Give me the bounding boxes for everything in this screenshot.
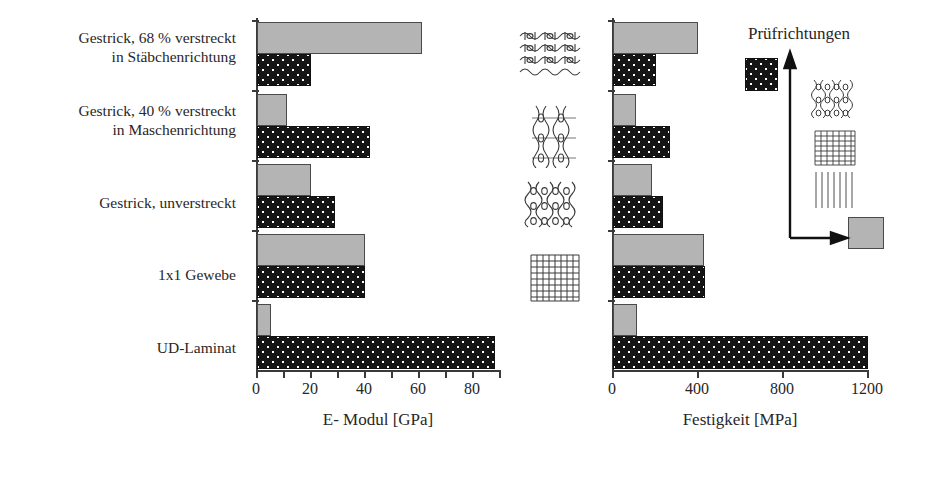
bar-light [257, 234, 365, 266]
x-tick-label: 60 [410, 380, 426, 398]
chart-e-modul: 0 20 40 60 80 E- Modul [GPa] [256, 18, 506, 388]
x-tick-label: 0 [252, 380, 260, 398]
category-label-list: Gestrick, 68 % verstreckt in Stäbchenric… [8, 0, 236, 390]
y-tick [252, 90, 259, 92]
y-tick [252, 160, 259, 162]
x-tick-label: 80 [464, 380, 480, 398]
bar-light [257, 304, 271, 336]
bar-dark [613, 126, 670, 158]
legend-knit-motif-icon [809, 78, 861, 124]
y-tick [608, 90, 615, 92]
bar-dark [613, 266, 705, 298]
bar-dark [613, 196, 663, 228]
x-tick-label: 40 [356, 380, 372, 398]
bar-light [613, 234, 704, 266]
legend-ud-fibers-icon [813, 170, 857, 214]
category-label: Gestrick, 40 % verstreckt in Maschenrich… [78, 101, 236, 139]
x-tick-label: 800 [770, 380, 794, 398]
bar-light [613, 22, 698, 54]
x-tick [364, 370, 366, 378]
bar-light [257, 164, 311, 196]
category-label: UD-Laminat [157, 338, 236, 357]
x-tick [697, 370, 699, 378]
x-tick-label: 400 [685, 380, 709, 398]
bar-dark [613, 54, 656, 86]
bar-dark [257, 266, 365, 298]
y-tick [252, 300, 259, 302]
x-tick [418, 370, 420, 378]
y-tick [608, 230, 615, 232]
x-tick-label: 1200 [851, 380, 883, 398]
y-tick [608, 300, 615, 302]
woven-grid-motif-icon [528, 252, 582, 308]
x-tick [472, 370, 474, 378]
x-tick-label: 0 [608, 380, 616, 398]
bar-dark [257, 54, 311, 86]
x-axis-line [256, 370, 501, 372]
x-tick [612, 370, 614, 378]
x-tick [391, 370, 393, 378]
legend-woven-grid-icon [813, 129, 857, 171]
x-tick [867, 370, 869, 378]
x-tick [337, 370, 339, 378]
knit-motif-warp-stretched-icon [518, 28, 588, 80]
category-label: Gestrick, unverstreckt [99, 193, 236, 212]
x-axis-title: E- Modul [GPa] [323, 410, 433, 430]
bar-dark [613, 336, 868, 369]
x-axis-title: Festigkeit [MPa] [683, 410, 798, 430]
x-tick [782, 370, 784, 378]
legend: Prüfrichtungen [735, 22, 925, 272]
bar-light [613, 164, 652, 196]
y-tick [608, 160, 615, 162]
bar-dark [257, 196, 335, 228]
bar-light [613, 94, 636, 126]
x-tick [310, 370, 312, 378]
x-axis-line [612, 370, 868, 372]
x-tick [499, 370, 501, 378]
bar-dark [257, 126, 370, 158]
bar-light [257, 22, 422, 54]
x-tick-label: 20 [302, 380, 318, 398]
x-tick [283, 370, 285, 378]
figure-root: Gestrick, 68 % verstreckt in Stäbchenric… [0, 0, 925, 488]
category-label: Gestrick, 68 % verstreckt in Stäbchenric… [78, 28, 236, 66]
category-label: 1x1 Gewebe [158, 265, 236, 284]
x-tick [256, 370, 258, 378]
bar-dark [257, 336, 495, 369]
bar-light [257, 94, 287, 126]
knit-motif-unstretched-icon [522, 180, 584, 232]
y-tick [252, 230, 259, 232]
knit-motif-weft-stretched-icon [530, 104, 578, 172]
x-tick [445, 370, 447, 378]
bar-light [613, 304, 637, 336]
